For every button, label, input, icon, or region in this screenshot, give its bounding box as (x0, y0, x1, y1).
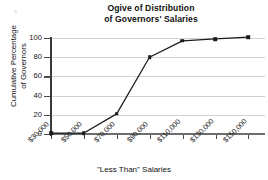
data-point-50000 (82, 131, 86, 135)
data-point-90000 (148, 55, 152, 59)
y-tick-40 (44, 96, 51, 97)
y-axis-title: Cumulative Percentage of Governors (9, 9, 29, 123)
chart-title-line-2: of Governors' Salaries (56, 14, 246, 25)
gridline-60 (51, 76, 265, 77)
y-axis-line (50, 37, 52, 136)
x-tick-30000 (51, 135, 52, 139)
y-tick-80 (44, 57, 51, 58)
chart-title-line-1: Ogive of Distribution (56, 3, 246, 14)
data-point-30000 (49, 131, 53, 135)
y-tick-60 (44, 76, 51, 77)
x-axis-title: "Less Than" Salaries (0, 165, 268, 174)
y-axis-title-line-2: of Governors (19, 9, 29, 123)
data-point-130000 (213, 37, 217, 41)
gridline-40 (51, 96, 265, 97)
data-point-150000 (246, 35, 250, 39)
y-tick-20 (44, 115, 51, 116)
y-axis-title-line-1: Cumulative Percentage (9, 25, 18, 107)
data-point-110000 (181, 39, 185, 43)
x-tick-70000 (117, 135, 118, 139)
x-tick-130000 (216, 135, 217, 139)
x-tick-150000 (248, 135, 249, 139)
ogive-chart: Ogive of Distribution of Governors' Sala… (0, 0, 268, 180)
chart-title: Ogive of Distribution of Governors' Sala… (56, 3, 246, 25)
x-tick-90000 (150, 135, 151, 139)
plot-area (51, 38, 265, 134)
data-point-70000 (115, 112, 119, 116)
gridline-80 (51, 57, 265, 58)
y-tick-100 (44, 38, 51, 39)
gridline-100 (51, 38, 265, 39)
gridline-20 (51, 115, 265, 116)
x-tick-110000 (183, 135, 184, 139)
x-tick-50000 (84, 135, 85, 139)
